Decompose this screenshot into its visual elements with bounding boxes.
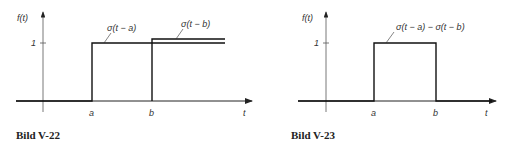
- leader-a: [104, 33, 111, 43]
- y-tick-label: 1: [31, 38, 36, 48]
- curve-label-pulse: σ(t − a) − σ(t − b): [396, 22, 465, 32]
- x-tick-b: b: [149, 108, 154, 118]
- x-axis-label: t: [485, 108, 488, 118]
- figure-caption: Bild V-23: [291, 129, 335, 141]
- leader-b: [176, 29, 183, 39]
- x-tick-b: b: [433, 108, 438, 118]
- curve-label-b: σ(t − b): [181, 19, 210, 29]
- x-tick-a: a: [371, 108, 376, 118]
- pulse-curve: [298, 43, 492, 101]
- y-tick-label: 1: [314, 38, 319, 48]
- figure-v23: f(t) 1 a b t σ(t − a) − σ(t − b) Bild V-…: [291, 12, 496, 141]
- x-axis-label: t: [243, 108, 246, 118]
- figure-v22: f(t) 1 a b t σ(t − a) σ(t − b) Bild V-22: [16, 12, 252, 141]
- figure-canvas: f(t) 1 a b t σ(t − a) σ(t − b) Bild V-22…: [0, 0, 507, 147]
- y-axis-label: f(t): [302, 13, 313, 23]
- step-curve-b: [152, 39, 225, 101]
- x-tick-a: a: [89, 108, 94, 118]
- step-curve-a: [16, 43, 225, 101]
- y-axis-label: f(t): [17, 13, 28, 23]
- figure-caption: Bild V-22: [16, 129, 60, 141]
- curve-label-a: σ(t − a): [107, 23, 136, 33]
- leader-pulse: [386, 32, 394, 43]
